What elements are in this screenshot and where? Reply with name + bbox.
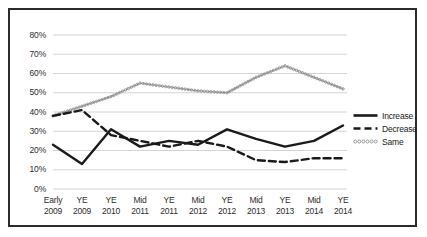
- legend-swatch-same-icon: [353, 136, 378, 147]
- x-tick-label-line: YE: [68, 195, 97, 206]
- x-tick-label: Early2009: [39, 195, 68, 216]
- x-tick-label-line: 2009: [39, 206, 68, 217]
- legend-swatch-decrease-icon: [353, 123, 378, 134]
- x-tick-label: Mid2012: [184, 195, 213, 216]
- x-tick-label: Mid2013: [242, 195, 271, 216]
- legend-label: Same: [382, 137, 403, 147]
- x-tick-label-line: 2011: [155, 206, 184, 217]
- y-tick-label: 10%: [12, 164, 46, 174]
- x-tick-label-line: Mid: [300, 195, 329, 206]
- x-tick-label-line: 2013: [271, 206, 300, 217]
- x-tick-label-line: 2013: [242, 206, 271, 217]
- x-tick-label-line: Mid: [242, 195, 271, 206]
- x-tick-label: YE2009: [68, 195, 97, 216]
- y-tick-label: 20%: [12, 145, 46, 155]
- series-line-decrease: [53, 110, 343, 162]
- legend-swatch-increase-icon: [353, 110, 378, 121]
- y-tick-label: 50%: [12, 87, 46, 97]
- x-tick-label: YE2012: [213, 195, 242, 216]
- line-chart: 0%10%20%30%40%50%60%70%80% Early2009YE20…: [10, 10, 419, 229]
- y-tick-label: 0%: [12, 184, 46, 194]
- x-tick-label-line: 2010: [97, 206, 126, 217]
- y-tick-label: 80%: [12, 30, 46, 40]
- y-tick-label: 60%: [12, 68, 46, 78]
- x-tick-label-line: YE: [97, 195, 126, 206]
- y-tick-label: 40%: [12, 107, 46, 117]
- x-tick-label: YE2013: [271, 195, 300, 216]
- x-tick-label-line: Mid: [184, 195, 213, 206]
- data-point: [301, 71, 304, 74]
- legend-item-increase[interactable]: Increase: [353, 109, 425, 122]
- y-tick-label: 70%: [12, 49, 46, 59]
- y-tick-label: 30%: [12, 126, 46, 136]
- series-decrease: [53, 110, 343, 162]
- x-tick-label: Mid2014: [300, 195, 329, 216]
- legend-item-decrease[interactable]: Decrease: [353, 122, 425, 135]
- x-tick-label-line: YE: [329, 195, 358, 206]
- chart-frame: 0%10%20%30%40%50%60%70%80% Early2009YE20…: [8, 8, 417, 227]
- legend-label: Decrease: [382, 124, 417, 134]
- x-tick-label: YE2010: [97, 195, 126, 216]
- chart-legend: IncreaseDecreaseSame: [353, 109, 425, 148]
- x-tick-label-line: Mid: [126, 195, 155, 206]
- x-tick-label-line: 2012: [213, 206, 242, 217]
- x-tick-label-line: 2014: [300, 206, 329, 217]
- data-point: [206, 90, 209, 93]
- x-tick-label-line: 2011: [126, 206, 155, 217]
- x-tick-label-line: 2009: [68, 206, 97, 217]
- x-tick-label-line: YE: [271, 195, 300, 206]
- data-point: [295, 69, 298, 72]
- x-tick-label-line: 2012: [184, 206, 213, 217]
- x-tick-label: Mid2011: [126, 195, 155, 216]
- data-point: [168, 86, 171, 89]
- series-same: [52, 65, 345, 118]
- legend-label: Increase: [382, 111, 413, 121]
- gridlines: [53, 35, 347, 189]
- x-tick-label: YE2011: [155, 195, 184, 216]
- data-point: [127, 87, 129, 90]
- data-point: [298, 70, 301, 73]
- x-tick-label: YE2014: [329, 195, 358, 216]
- legend-item-same[interactable]: Same: [353, 135, 425, 148]
- x-tick-label-line: 2014: [329, 206, 358, 217]
- x-tick-label-line: YE: [213, 195, 242, 206]
- x-tick-label-line: YE: [155, 195, 184, 206]
- x-tick-label-line: Early: [39, 195, 68, 206]
